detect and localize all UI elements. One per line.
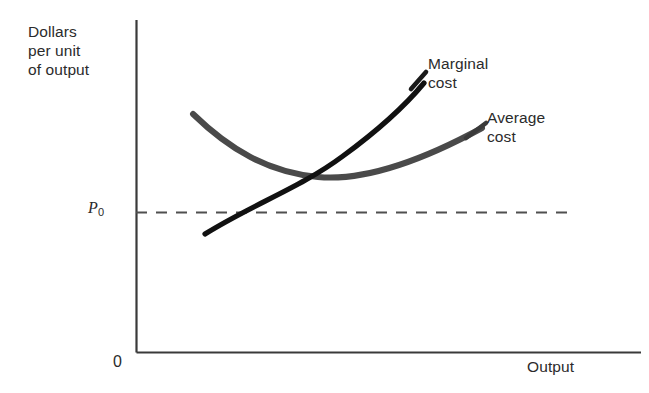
average-cost-label: Average cost bbox=[487, 108, 545, 146]
y-axis-title: Dollars per unit of output bbox=[28, 22, 89, 79]
cost-curves-figure: Dollars per unit of output Output 0 Marg… bbox=[0, 0, 649, 393]
price-axis-label: P0 bbox=[88, 198, 104, 222]
plot-area bbox=[0, 0, 649, 393]
price-subscript: 0 bbox=[98, 206, 104, 218]
marginal-cost-label: Marginal cost bbox=[428, 54, 488, 92]
x-axis-title: Output bbox=[527, 357, 574, 376]
price-symbol: P bbox=[88, 199, 98, 216]
marginal-cost-curve bbox=[205, 83, 424, 234]
origin-label: 0 bbox=[113, 352, 122, 371]
average-cost-curve bbox=[193, 114, 482, 178]
